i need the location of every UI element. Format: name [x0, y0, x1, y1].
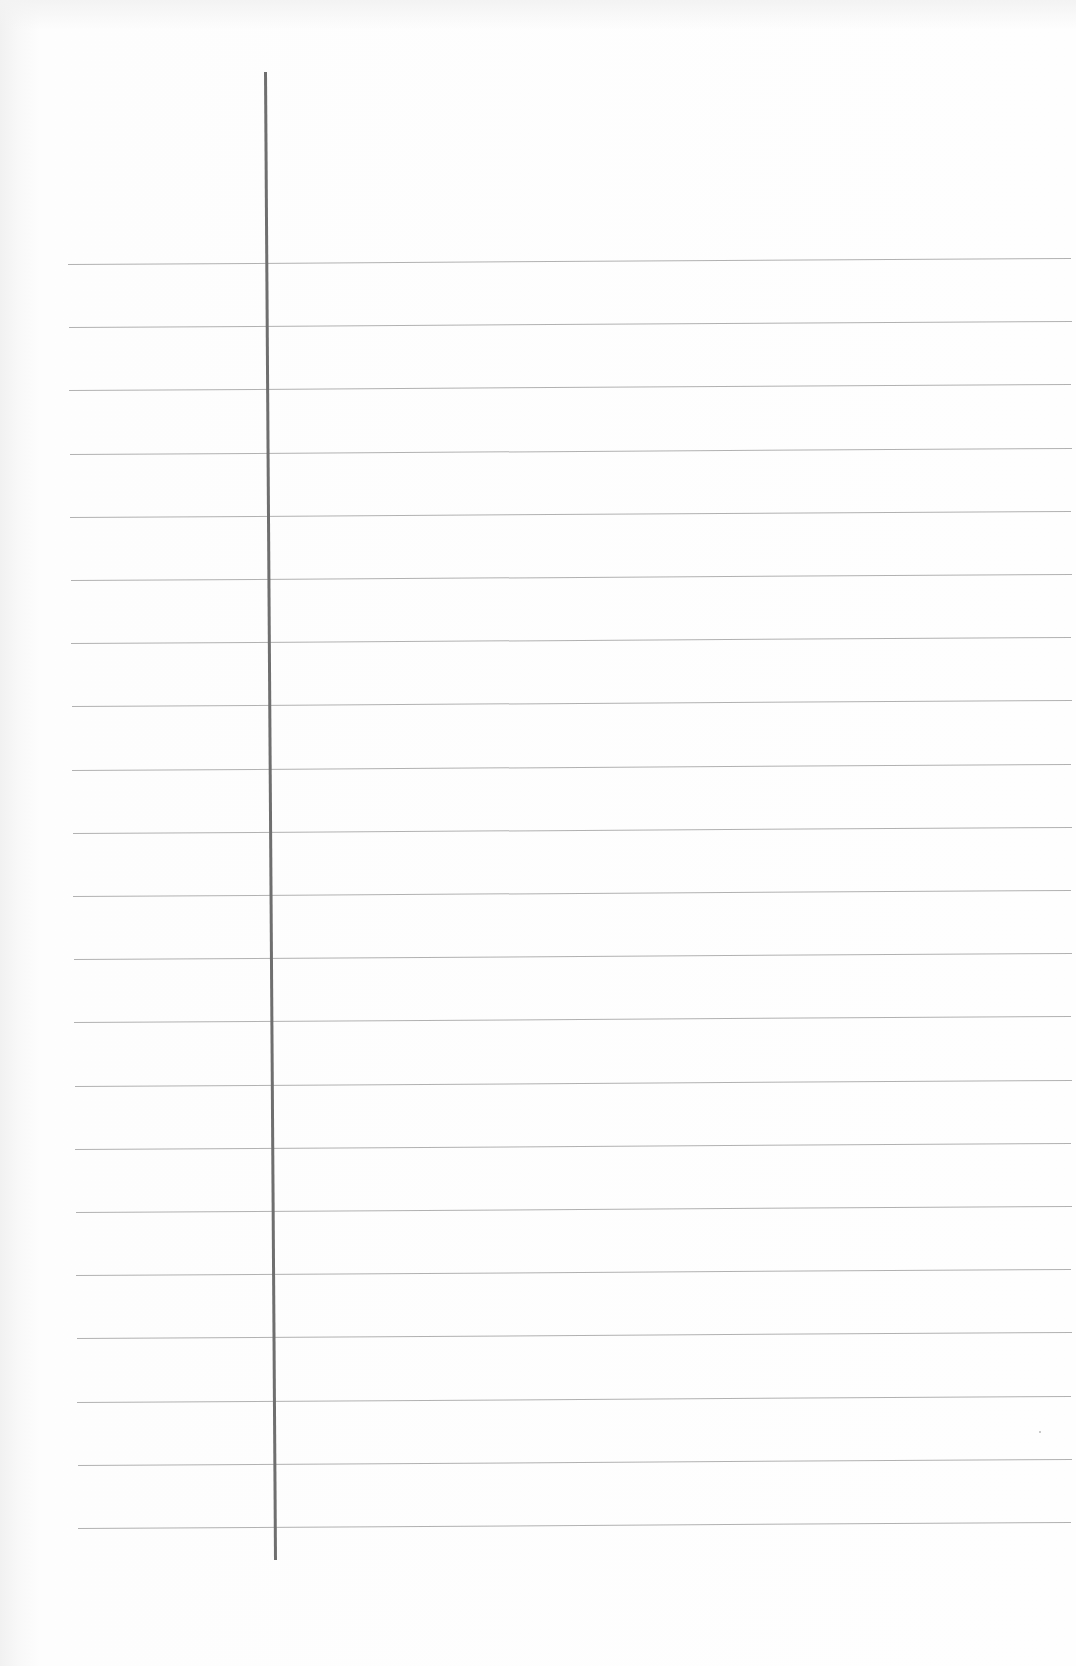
ruled-line	[74, 1080, 1071, 1087]
ruled-line	[75, 1143, 1071, 1150]
ruled-line	[69, 448, 1071, 455]
paper-speck	[1039, 1431, 1041, 1433]
ruled-line	[76, 1332, 1071, 1339]
ruled-line	[73, 953, 1071, 960]
ruled-line	[72, 764, 1071, 771]
ruled-paper-page	[0, 0, 1076, 1666]
scan-shadow	[0, 0, 1076, 30]
ruled-line	[69, 384, 1071, 391]
ruled-line	[70, 574, 1071, 581]
ruled-line	[76, 1269, 1071, 1276]
ruled-line	[70, 511, 1071, 518]
ruled-line	[71, 637, 1071, 644]
ruled-line	[68, 321, 1071, 328]
ruled-line	[74, 1016, 1071, 1023]
ruled-line	[75, 1206, 1071, 1213]
ruled-line	[77, 1396, 1071, 1403]
ruled-line	[73, 890, 1071, 897]
ruled-line	[77, 1459, 1071, 1466]
ruled-line	[68, 258, 1071, 265]
ruled-line	[78, 1522, 1071, 1529]
ruled-line	[71, 700, 1071, 707]
ruled-line	[72, 827, 1071, 834]
